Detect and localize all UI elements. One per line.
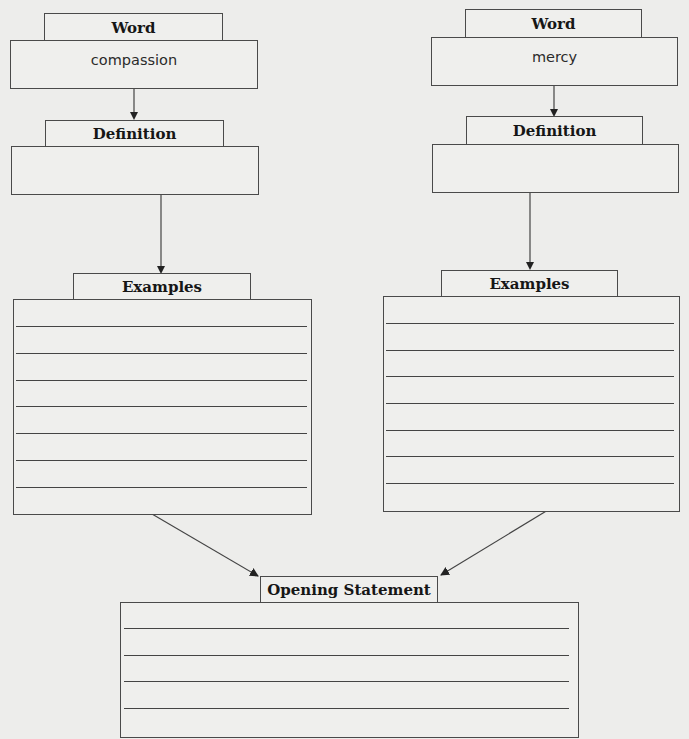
right-examples-field[interactable]: [383, 296, 680, 512]
writing-line: [386, 456, 674, 457]
arrow-right-definition-to-examples: [526, 192, 534, 270]
right-definition-label: Definition: [466, 116, 643, 145]
writing-line: [124, 708, 569, 709]
right-definition-field[interactable]: [432, 144, 679, 193]
arrow-left-definition-to-examples: [157, 194, 165, 274]
writing-line: [386, 403, 674, 404]
right-examples-label: Examples: [441, 270, 618, 297]
arrow-right-word-to-definition: [550, 85, 558, 117]
writing-line: [386, 323, 674, 324]
right-word-field[interactable]: mercy: [431, 37, 678, 86]
left-word-field[interactable]: compassion: [10, 40, 258, 89]
writing-line: [16, 487, 307, 488]
writing-line: [124, 681, 569, 682]
left-word-value: compassion: [91, 52, 177, 68]
opening-statement-label: Opening Statement: [260, 576, 438, 603]
writing-line: [124, 655, 569, 656]
writing-line: [16, 326, 307, 327]
arrow-left-examples-to-opening: [152, 514, 258, 576]
left-examples-label: Examples: [73, 273, 251, 300]
writing-line: [386, 430, 674, 431]
arrow-left-word-to-definition: [130, 88, 138, 120]
arrow-right-examples-to-opening: [441, 510, 548, 575]
left-examples-field[interactable]: [13, 299, 312, 515]
writing-line: [16, 433, 307, 434]
writing-line: [386, 483, 674, 484]
writing-line: [16, 406, 307, 407]
writing-line: [386, 350, 674, 351]
writing-line: [386, 376, 674, 377]
left-definition-field[interactable]: [11, 146, 259, 195]
writing-line: [16, 460, 307, 461]
writing-line: [124, 628, 569, 629]
left-word-label: Word: [44, 13, 223, 41]
opening-statement-field[interactable]: [120, 602, 579, 738]
right-word-label: Word: [465, 9, 642, 38]
right-word-value: mercy: [532, 49, 577, 65]
writing-line: [16, 353, 307, 354]
left-definition-label: Definition: [45, 120, 224, 147]
writing-line: [16, 380, 307, 381]
